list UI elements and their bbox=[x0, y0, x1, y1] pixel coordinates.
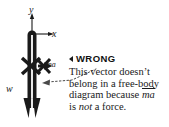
caption-line-3: diagram because bbox=[69, 89, 139, 100]
free-body-diagram: y x w ma bbox=[0, 0, 70, 127]
physics-figure-wrong-fbd: y x w ma WRONG This vector doesn’t belon… bbox=[0, 0, 169, 127]
caption-closing-emphasis: not bbox=[79, 101, 92, 112]
caption-closing-suffix: a force. bbox=[95, 101, 126, 112]
caption-closing-prefix: is bbox=[69, 101, 76, 112]
caption-line-2: belong in a free-body bbox=[69, 78, 159, 89]
left-triangle-icon bbox=[69, 56, 73, 62]
y-axis-label: y bbox=[29, 5, 33, 15]
callout-block: WRONG This vector doesn’t belong in a fr… bbox=[69, 53, 169, 112]
callout-heading-row: WRONG bbox=[69, 53, 169, 64]
diagram-vector-graphics bbox=[0, 0, 70, 127]
callout-heading: WRONG bbox=[76, 54, 115, 64]
callout-body: This vector doesn’t belong in a free-bod… bbox=[69, 66, 169, 112]
inline-math-ma: ma bbox=[142, 89, 155, 101]
leader-arrowhead-icon bbox=[42, 79, 50, 85]
caption-line-1: This vector doesn’t bbox=[69, 66, 150, 77]
weight-vector-label: w bbox=[6, 84, 13, 94]
x-axis-label: x bbox=[52, 29, 56, 39]
